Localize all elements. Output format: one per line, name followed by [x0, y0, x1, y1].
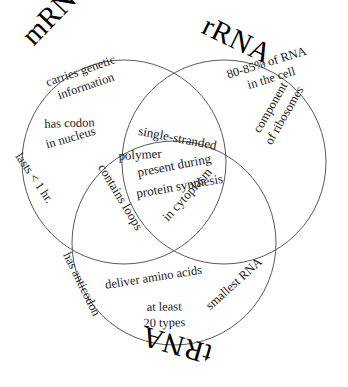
item-line: 20 types [143, 315, 185, 331]
item-at-least-20-types: at least 20 types [143, 299, 186, 331]
venn-diagram: mRNA rRNA tRNA carries genetic informati… [0, 0, 348, 387]
item-line: at least [143, 299, 185, 315]
